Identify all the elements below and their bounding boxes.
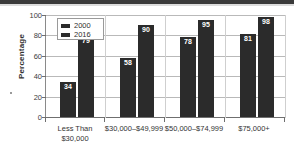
top-edge-band-light bbox=[0, 4, 294, 6]
legend-swatch-icon-2000 bbox=[61, 24, 70, 28]
x-axis-label-75000-plus: $75,000+ bbox=[215, 124, 293, 134]
y-tick-label-40: 40 bbox=[16, 72, 42, 81]
bar-value-2016-50000-74999: 95 bbox=[198, 21, 214, 29]
chart-legend: 2000 2016 bbox=[57, 18, 104, 40]
bar-value-2000-less-than-30000: 34 bbox=[60, 83, 76, 91]
scan-artifact-speck bbox=[10, 92, 12, 94]
x-axis-label-line1-75000-plus: $75,000+ bbox=[215, 124, 293, 134]
y-tick-label-60: 60 bbox=[16, 52, 42, 61]
bar-2000-less-than-30000[interactable]: 34 bbox=[60, 82, 76, 117]
bar-2016-50000-74999[interactable]: 95 bbox=[198, 20, 214, 117]
x-tick-mark-1 bbox=[104, 118, 105, 122]
x-tick-mark-3 bbox=[224, 118, 225, 122]
x-tick-mark-2 bbox=[164, 118, 165, 122]
bar-value-2016-75000-plus: 98 bbox=[258, 18, 274, 26]
legend-item-2016[interactable]: 2016 bbox=[61, 30, 103, 39]
y-tick-mark-100 bbox=[42, 15, 46, 16]
legend-label-2016: 2016 bbox=[74, 30, 91, 39]
bar-2000-50000-74999[interactable]: 78 bbox=[180, 37, 196, 117]
x-axis-line bbox=[46, 117, 286, 118]
bar-2000-30000-49999[interactable]: 58 bbox=[120, 58, 136, 117]
bar-2016-less-than-30000[interactable]: 79 bbox=[78, 36, 94, 117]
legend-swatch-icon-2016 bbox=[61, 33, 70, 37]
vertical-gridline-2 bbox=[165, 15, 166, 118]
bar-value-2016-30000-49999: 90 bbox=[138, 26, 154, 34]
legend-label-2000: 2000 bbox=[74, 21, 91, 30]
legend-item-2000[interactable]: 2000 bbox=[61, 21, 103, 30]
y-tick-mark-60 bbox=[42, 56, 46, 57]
y-tick-label-20: 20 bbox=[16, 93, 42, 102]
x-tick-mark-0 bbox=[45, 118, 46, 122]
y-tick-mark-40 bbox=[42, 76, 46, 77]
x-axis-label-line2-less-than-30000: $30,000 bbox=[36, 134, 114, 144]
gridline-100 bbox=[46, 15, 286, 16]
y-tick-mark-20 bbox=[42, 97, 46, 98]
vertical-gridline-1 bbox=[105, 15, 106, 118]
vertical-gridline-3 bbox=[225, 15, 226, 118]
vertical-gridline-4 bbox=[285, 15, 286, 118]
bar-2000-75000-plus[interactable]: 81 bbox=[240, 34, 256, 117]
bar-value-2000-75000-plus: 81 bbox=[240, 35, 256, 43]
y-tick-label-100: 100 bbox=[16, 11, 42, 20]
bar-value-2000-50000-74999: 78 bbox=[180, 38, 196, 46]
chart-screenshot: Percentage 100 80 60 40 20 0 34 79 bbox=[0, 0, 294, 159]
bar-2016-30000-49999[interactable]: 90 bbox=[138, 25, 154, 117]
y-tick-mark-80 bbox=[42, 35, 46, 36]
y-tick-label-0: 0 bbox=[16, 113, 42, 122]
y-tick-label-80: 80 bbox=[16, 31, 42, 40]
x-tick-mark-4 bbox=[284, 118, 285, 122]
bar-value-2000-30000-49999: 58 bbox=[120, 59, 136, 67]
bar-2016-75000-plus[interactable]: 98 bbox=[258, 17, 274, 117]
